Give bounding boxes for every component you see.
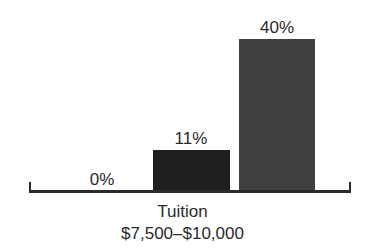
x-axis-line — [29, 190, 351, 193]
category-label-line1: Tuition — [0, 202, 365, 222]
bar-2-value-label: 11% — [151, 129, 231, 149]
x-axis-left-tick — [29, 182, 31, 192]
bar-chart: 0% 11% 40% Tuition $7,500–$10,000 — [0, 0, 365, 251]
category-label-line2: $7,500–$10,000 — [0, 224, 365, 244]
bar-3-value-label: 40% — [237, 18, 317, 38]
bar-3 — [239, 39, 315, 191]
bar-2 — [153, 150, 230, 191]
bar-1-value-label: 0% — [62, 170, 142, 190]
x-axis-right-tick — [349, 182, 351, 192]
